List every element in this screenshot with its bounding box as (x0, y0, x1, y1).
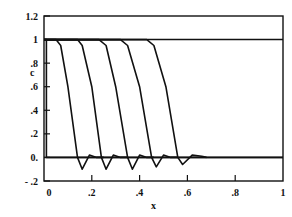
y-tick-label: 1.2 (26, 11, 39, 22)
chart: - .20..2.4.6.811.2 0.2.4.6.81 c x (0, 0, 292, 217)
x-tick-label: 0 (47, 187, 52, 198)
y-tick-label: 1 (33, 34, 38, 45)
x-axis-label: x (151, 200, 156, 211)
x-tick-label: 1 (281, 187, 286, 198)
series-t3 (44, 40, 154, 170)
x-axis: 0.2.4.6.81 (47, 175, 286, 198)
x-tick-label: .2 (88, 187, 96, 198)
y-tick-label: .2 (31, 128, 39, 139)
data-series (44, 40, 283, 170)
y-tick-label: 0. (31, 152, 39, 163)
y-tick-label: .4 (31, 105, 39, 116)
x-tick-label: .8 (231, 187, 239, 198)
x-tick-label: .4 (136, 187, 144, 198)
y-axis-label: c (30, 67, 35, 78)
x-tick-label: .6 (184, 187, 192, 198)
y-tick-label: .6 (31, 81, 39, 92)
series-t2 (44, 40, 128, 170)
y-tick-label: - .2 (25, 176, 38, 187)
series-t0 (44, 40, 283, 158)
